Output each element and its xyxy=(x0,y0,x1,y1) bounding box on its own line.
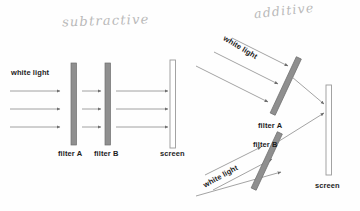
left-incoming-rays xyxy=(10,91,60,127)
left-filter-a xyxy=(71,63,77,145)
right-top-output-ray xyxy=(292,77,324,104)
left-mid-rays xyxy=(82,91,101,127)
left-filter-b-label: filter B xyxy=(94,150,119,158)
right-filter-a xyxy=(270,57,301,116)
left-filter-b xyxy=(105,63,111,145)
left-output-rays xyxy=(116,91,168,127)
left-filter-a-label: filter A xyxy=(58,150,82,158)
left-white-light-label: white light xyxy=(11,69,49,77)
left-screen xyxy=(170,60,176,148)
right-filter-a-label: filter A xyxy=(258,122,282,130)
right-bottom-output-ray xyxy=(276,113,324,143)
handwritten-subtractive-label: subtractive xyxy=(62,12,150,28)
left-screen-label: screen xyxy=(160,150,185,158)
diagram-vectors xyxy=(0,0,360,211)
figure-canvas: subtractive additive white light filter … xyxy=(0,0,360,211)
right-screen-label: screen xyxy=(315,182,340,190)
right-screen xyxy=(326,85,332,175)
right-filter-b-label: filter B xyxy=(253,141,278,149)
